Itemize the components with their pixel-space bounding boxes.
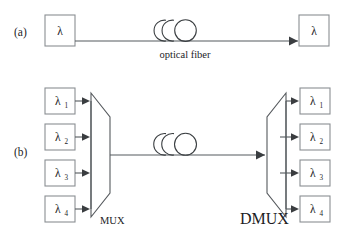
input-2-arrowhead-icon [82,133,90,141]
panel-b-output-3: λ 3 [280,160,330,186]
output-2-subscript: 2 [320,138,324,146]
panel-b-group: (b) λ 1 λ 2 λ 3 [14,88,330,227]
input-4-subscript: 4 [65,210,69,218]
panel-a-fiber-label: optical fiber [159,49,211,60]
dmux-trapezoid [267,93,286,217]
panel-b-input-2: λ 2 [45,124,90,150]
output-3-lambda: λ [310,167,316,179]
panel-a-group: (a) λ optical fiber λ [14,15,329,60]
input-1-subscript: 1 [65,102,69,110]
output-4-arrowhead-icon [291,205,299,213]
panel-b-fiber-coil-icon [154,133,197,155]
input-2-lambda: λ [55,131,61,143]
panel-b-arrowhead-icon [256,151,265,160]
input-4-lambda: λ [55,203,61,215]
panel-a-label: (a) [14,26,27,39]
output-3-arrowhead-icon [291,169,299,177]
input-1-lambda: λ [55,95,61,107]
output-3-subscript: 3 [320,174,324,182]
output-2-lambda: λ [310,131,316,143]
input-2-subscript: 2 [65,138,69,146]
panel-a-arrowhead-icon [289,37,298,46]
output-2-arrowhead-icon [291,133,299,141]
mux-label: MUX [100,215,125,226]
panel-b-output-2: λ 2 [280,124,330,150]
panel-b-output-4: λ 4 [286,196,330,222]
figure-wdm-optical-link: (a) λ optical fiber λ (b) [0,0,346,234]
input-3-lambda: λ [55,167,61,179]
input-3-arrowhead-icon [82,169,90,177]
input-4-arrowhead-icon [82,205,90,213]
input-1-arrowhead-icon [82,97,90,105]
output-4-subscript: 4 [320,210,324,218]
panel-b-label: (b) [14,146,28,159]
output-4-lambda: λ [310,203,316,215]
panel-a-source-label: λ [57,25,63,37]
panel-a-fiber-coil-icon [154,20,196,42]
panel-b-input-3: λ 3 [45,160,90,186]
diagram-canvas: (a) λ optical fiber λ (b) [0,0,346,234]
output-1-subscript: 1 [320,102,324,110]
panel-b-input-1: λ 1 [45,88,90,114]
output-1-lambda: λ [310,95,316,107]
panel-b-input-4: λ 4 [45,196,90,222]
mux-trapezoid [91,93,110,217]
input-3-subscript: 3 [65,174,69,182]
dmux-label: DMUX [240,210,289,227]
panel-a-dest-label: λ [311,25,317,37]
output-1-arrowhead-icon [291,97,299,105]
panel-b-output-1: λ 1 [286,88,330,114]
